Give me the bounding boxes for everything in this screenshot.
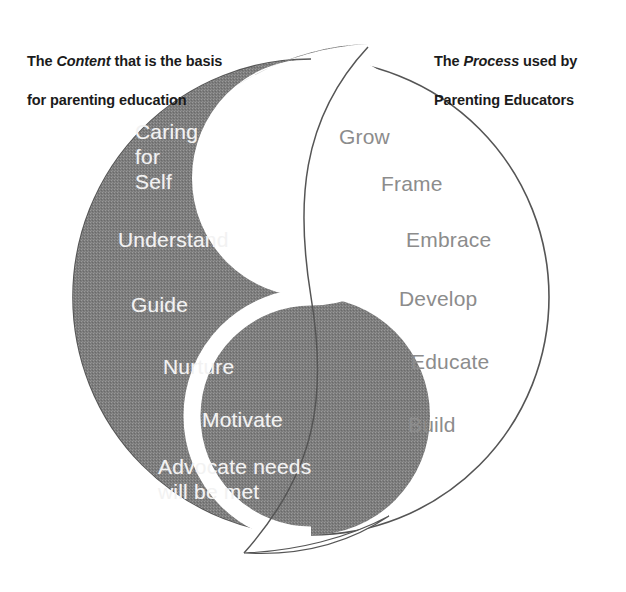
content-word-0: Caring for Self	[135, 120, 198, 194]
content-word-2: Guide	[131, 293, 188, 318]
caption-content-line2: for parenting education	[27, 92, 187, 108]
process-word-5: Build	[408, 413, 456, 438]
content-word-5: Advocate needs will be met	[158, 455, 311, 505]
caption-process-line2: Parenting Educators	[434, 92, 574, 108]
caption-content-suffix: that is the basis	[111, 53, 223, 69]
caption-process-suffix: used by	[519, 53, 577, 69]
caption-process-prefix: The	[434, 53, 463, 69]
caption-content: The Content that is the basis for parent…	[27, 33, 222, 110]
caption-process: The Process used by Parenting Educators	[434, 33, 577, 110]
process-word-4: Educate	[411, 350, 489, 375]
process-word-3: Develop	[399, 287, 477, 312]
content-word-3: Nurture	[163, 355, 234, 380]
content-word-4: Motivate	[202, 408, 283, 433]
process-word-1: Frame	[381, 172, 443, 197]
caption-content-prefix: The	[27, 53, 56, 69]
diagram-canvas: The Content that is the basis for parent…	[0, 0, 626, 592]
caption-content-emphasis: Content	[56, 53, 110, 69]
process-word-2: Embrace	[406, 228, 491, 253]
caption-process-emphasis: Process	[463, 53, 519, 69]
content-word-1: Understand	[118, 228, 229, 253]
process-word-0: Grow	[339, 125, 390, 150]
caption-process-line1: The Process used by	[434, 53, 577, 69]
caption-content-line1: The Content that is the basis	[27, 53, 222, 69]
